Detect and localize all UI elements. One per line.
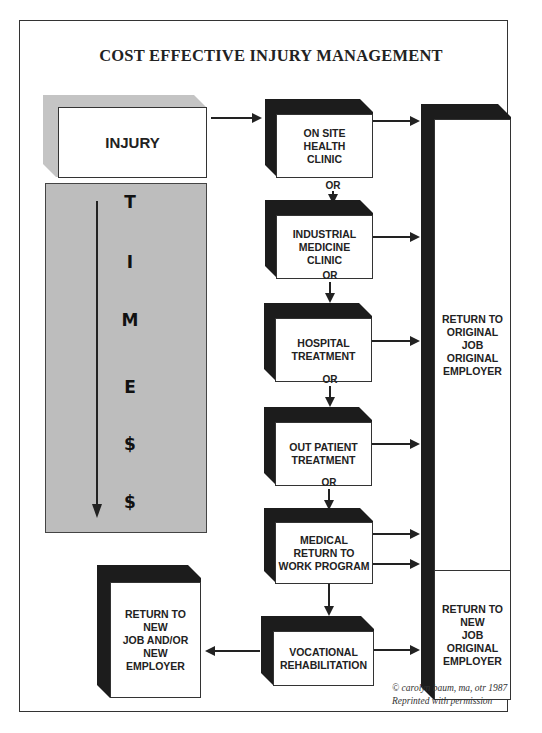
step-medical-return-to-work: MEDICAL RETURN TO WORK PROGRAM xyxy=(275,522,373,584)
outcome-new-employer-label: RETURN TO NEW JOB AND/OR NEW EMPLOYER xyxy=(123,608,189,673)
step-vocational-label: VOCATIONAL REHABILITATION xyxy=(280,646,367,672)
step-industrial-label: INDUSTRIAL MEDICINE CLINIC xyxy=(293,228,357,267)
arrowhead-icon xyxy=(410,336,420,346)
arrowhead-icon xyxy=(410,559,420,569)
diagram-title: COST EFFECTIVE INJURY MANAGEMENT xyxy=(0,46,542,66)
arrowhead-icon xyxy=(324,606,334,616)
step-medical-rtw-label: MEDICAL RETURN TO WORK PROGRAM xyxy=(279,534,370,573)
time-letter-m: M xyxy=(118,310,142,330)
arrow-vocational-to-new-employer xyxy=(214,650,260,652)
step-hospital-label: HOSPITAL TREATMENT xyxy=(292,337,356,363)
injury-box: INJURY xyxy=(58,107,207,178)
arrowhead-icon xyxy=(410,232,420,242)
time-arrow-line xyxy=(96,201,98,506)
outcome-new-job-label: RETURN TO NEW JOB ORIGINAL EMPLOYER xyxy=(442,603,503,668)
arrowhead-icon xyxy=(205,646,215,656)
outcome-new-job-new-employer: RETURN TO NEW JOB AND/OR NEW EMPLOYER xyxy=(110,582,201,698)
arrowhead-icon xyxy=(252,113,262,123)
time-letter-e: E xyxy=(118,377,142,397)
time-arrow-down-icon xyxy=(92,504,102,518)
or-label-1: OR xyxy=(318,180,348,191)
arrowhead-icon xyxy=(410,645,420,655)
outcome-original-label: RETURN TO ORIGINAL JOB ORIGINAL EMPLOYER xyxy=(442,313,503,378)
step-onsite-clinic: ON SITE HEALTH CLINIC xyxy=(276,114,373,178)
outcome-new-job-original-employer: RETURN TO NEW JOB ORIGINAL EMPLOYER xyxy=(434,570,511,700)
arrowhead-icon xyxy=(325,293,335,303)
cost-symbol-2: $ xyxy=(118,492,142,512)
time-letter-t: T xyxy=(118,192,142,212)
step-vocational-rehabilitation: VOCATIONAL REHABILITATION xyxy=(273,631,374,686)
or-label-3: OR xyxy=(315,374,345,385)
time-letter-i: I xyxy=(118,252,142,272)
or-label-2: OR xyxy=(315,270,345,281)
arrow-medical-to-new-job xyxy=(373,563,411,565)
time-cost-panel: T I M E $ $ xyxy=(45,183,207,533)
arrowhead-icon xyxy=(410,116,420,126)
arrowhead-icon xyxy=(410,529,420,539)
arrowhead-icon xyxy=(325,397,335,407)
arrow-medical-to-vocational xyxy=(328,584,330,608)
or-label-4: OR xyxy=(314,477,344,488)
arrow-onsite-to-outcome xyxy=(373,120,411,122)
arrowhead-icon xyxy=(410,439,420,449)
copyright-credit: © carolyn baum, ma, otr 1987 Reprinted w… xyxy=(392,682,507,708)
cost-symbol-1: $ xyxy=(118,434,142,454)
step-hospital-treatment: HOSPITAL TREATMENT xyxy=(275,318,372,382)
step-outpatient-label: OUT PATIENT TREATMENT xyxy=(289,441,357,467)
arrow-outpatient-to-outcome xyxy=(372,443,411,445)
arrow-medical-to-original xyxy=(373,533,411,535)
arrow-vocational-to-new-job xyxy=(374,649,411,651)
arrow-injury-to-onsite xyxy=(211,117,253,119)
arrow-industrial-to-outcome xyxy=(373,236,411,238)
outcome-original-job-original-employer: RETURN TO ORIGINAL JOB ORIGINAL EMPLOYER xyxy=(434,119,511,571)
step-onsite-label: ON SITE HEALTH CLINIC xyxy=(303,127,345,166)
injury-label: INJURY xyxy=(105,136,159,149)
arrow-hospital-to-outcome xyxy=(372,340,411,342)
